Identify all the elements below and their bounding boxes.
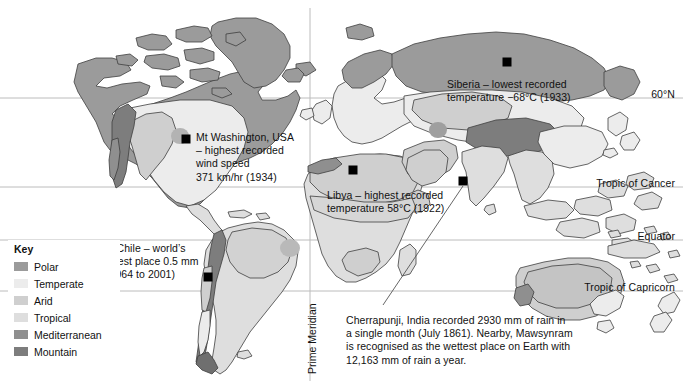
map-key: Key Polar Temperate Arid Tropical Medite… [8, 240, 120, 365]
marker-siberia [503, 58, 512, 67]
landmass-new-zealand [650, 292, 680, 332]
marker-cherrapunji [459, 177, 468, 186]
annotation-mt-washington: Mt Washington, USA – highest recorded wi… [196, 131, 294, 184]
landmass-india [462, 146, 508, 206]
latitude-label-equator: Equator [638, 230, 675, 242]
landmass-caribbean [228, 210, 270, 220]
annotation-cherrapunji: Cherrapunji, India recorded 2930 mm of r… [346, 314, 573, 367]
landmass-falklands [237, 350, 252, 359]
key-swatch-temperate [14, 279, 28, 288]
annotation-libya: Libya – highest recorded temperature 58°… [327, 189, 444, 215]
key-item-arid: Arid [12, 293, 116, 308]
landmass-british-isles [300, 100, 332, 124]
key-item-tropical: Tropical [12, 310, 116, 325]
region-scandinavia-polar [342, 50, 394, 88]
key-swatch-mediterranean [14, 330, 28, 339]
marker-mt-washington [182, 135, 191, 144]
key-swatch-arid [14, 296, 28, 305]
region-kamchatka-polar [604, 66, 640, 100]
region-caspian-spot [429, 122, 447, 138]
latitude-label-60n: 60°N [651, 88, 675, 100]
key-item-mountain: Mountain [12, 344, 116, 359]
key-label-mountain: Mountain [34, 346, 77, 358]
key-item-polar: Polar [12, 259, 116, 274]
latitude-label-tropic-of-cancer: Tropic of Cancer [596, 177, 675, 189]
meridian-label-prime-meridian: Prime Meridian [306, 303, 318, 374]
key-label-arid: Arid [34, 295, 53, 307]
landmass-svalbard [346, 24, 374, 40]
landmass-se-asia [508, 150, 554, 204]
latitude-label-tropic-of-capricorn: Tropic of Capricorn [584, 281, 675, 293]
key-label-mediterranean: Mediterranean [34, 329, 102, 341]
key-swatch-polar [14, 262, 28, 271]
marker-libya [349, 166, 358, 175]
key-label-polar: Polar [34, 261, 59, 273]
marker-n-chile [204, 273, 213, 282]
landmass-sri-lanka [484, 204, 496, 215]
key-label-temperate: Temperate [34, 278, 84, 290]
key-label-tropical: Tropical [34, 312, 71, 324]
landmass-japan [603, 112, 640, 158]
key-item-temperate: Temperate [12, 276, 116, 291]
world-climate-map: 60°N Tropic of Cancer Equator Tropic of … [0, 0, 683, 381]
region-brazil-highland-spot [280, 239, 300, 257]
key-swatch-mountain [14, 347, 28, 356]
key-swatch-tropical [14, 313, 28, 322]
key-item-mediterranean: Mediterranean [12, 327, 116, 342]
region-chile-south-temperate [198, 310, 210, 356]
key-title: Key [14, 243, 116, 255]
annotation-siberia: Siberia – lowest recorded temperature −6… [447, 78, 571, 104]
landmass-tasmania [597, 320, 614, 333]
